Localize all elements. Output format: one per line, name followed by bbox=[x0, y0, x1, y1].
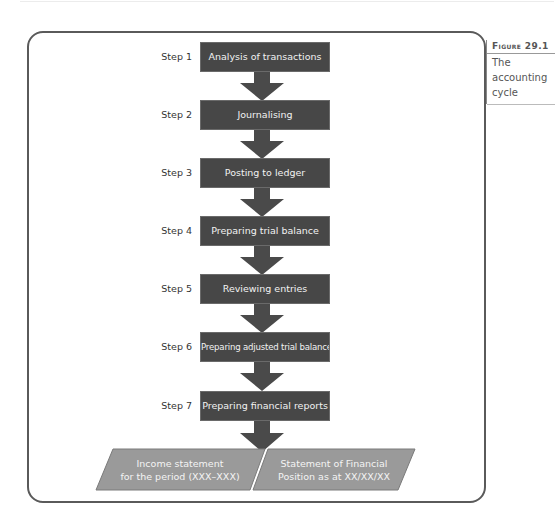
figure-caption: Figure 29.1 The accounting cycle bbox=[486, 40, 555, 104]
caption-line: The bbox=[492, 55, 547, 70]
step-label: Step 7 bbox=[140, 391, 192, 421]
step-label: Step 1 bbox=[140, 42, 192, 72]
output-line: Income statement bbox=[100, 457, 260, 470]
figure-title: The accounting cycle bbox=[492, 55, 547, 100]
arrow-down-icon bbox=[240, 130, 284, 159]
output-financial-position: Statement of Financial Position as at XX… bbox=[258, 457, 410, 483]
arrow-down-icon bbox=[240, 246, 284, 275]
arrow-down-icon bbox=[240, 362, 284, 391]
step-label: Step 5 bbox=[140, 274, 192, 304]
output-line: for the period (XXX–XXX) bbox=[100, 470, 260, 483]
step-box-reviewing-entries: Reviewing entries bbox=[200, 274, 330, 304]
arrow-down-icon bbox=[240, 421, 284, 452]
caption-bottom-rule bbox=[487, 104, 555, 105]
step-label: Step 3 bbox=[140, 158, 192, 188]
caption-line: accounting bbox=[492, 70, 547, 85]
arrow-down-icon bbox=[240, 72, 284, 101]
caption-divider bbox=[487, 53, 555, 54]
step-box-posting-to-ledger: Posting to ledger bbox=[200, 158, 330, 188]
step-box-journalising: Journalising bbox=[200, 100, 330, 130]
step-label: Step 2 bbox=[140, 100, 192, 130]
step-box-preparing-adjusted-trial-balance: Preparing adjusted trial balance bbox=[200, 332, 330, 362]
figure-label: Figure 29.1 bbox=[492, 41, 549, 51]
step-label: Step 4 bbox=[140, 216, 192, 246]
step-box-preparing-financial-reports: Preparing financial reports bbox=[200, 391, 330, 421]
step-box-analysis-of-transactions: Analysis of transactions bbox=[200, 42, 330, 72]
arrow-down-icon bbox=[240, 188, 284, 217]
step-label: Step 6 bbox=[140, 332, 192, 362]
step-box-preparing-trial-balance: Preparing trial balance bbox=[200, 216, 330, 246]
output-income-statement: Income statement for the period (XXX–XXX… bbox=[100, 457, 260, 483]
caption-line: cycle bbox=[492, 85, 547, 100]
arrow-down-icon bbox=[240, 304, 284, 333]
output-line: Statement of Financial bbox=[258, 457, 410, 470]
output-line: Position as at XX/XX/XX bbox=[258, 470, 410, 483]
